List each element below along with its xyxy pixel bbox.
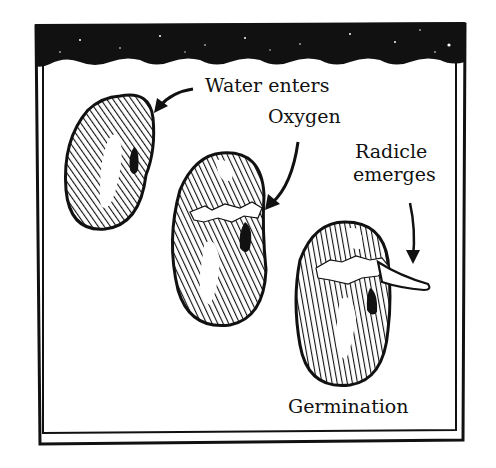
seed-radicle	[296, 222, 429, 386]
label-oxygen: Oxygen	[268, 106, 341, 127]
label-emerges: emerges	[353, 164, 436, 185]
diagram-title: Germination	[288, 396, 409, 417]
seed-dry	[65, 95, 153, 229]
arrow-radicle	[406, 203, 420, 264]
label-radicle: Radicle	[355, 141, 427, 162]
label-water-enters: Water enters	[205, 75, 329, 96]
germination-illustration	[0, 0, 496, 468]
soil-band	[35, 22, 465, 67]
arrow-oxygen	[265, 142, 298, 210]
seed-splitting	[172, 153, 266, 326]
arrow-water	[154, 89, 193, 113]
